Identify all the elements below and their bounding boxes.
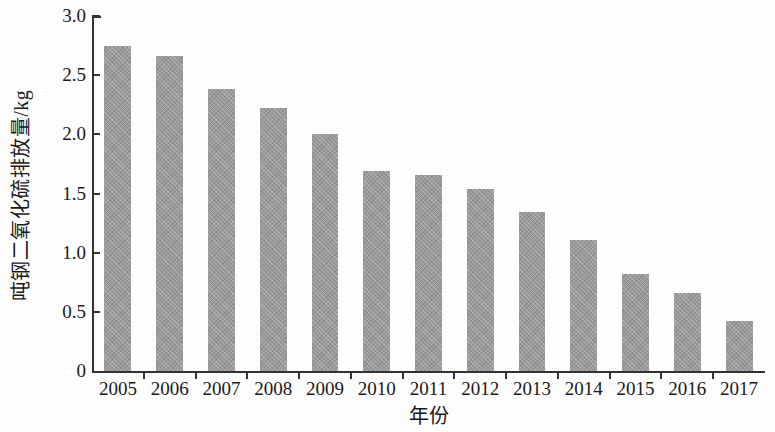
bar <box>726 321 753 371</box>
y-axis-tick-label: 0 <box>40 361 86 380</box>
x-axis-tick-label: 2006 <box>144 378 196 400</box>
x-axis-tick-label: 2017 <box>713 378 765 400</box>
y-axis-tick-labels: 00.51.01.52.02.53.0 <box>36 16 86 373</box>
y-axis-tick <box>92 133 100 135</box>
bar <box>674 293 701 371</box>
x-axis-tick-label: 2010 <box>351 378 403 400</box>
bar <box>104 46 131 371</box>
x-axis-tick-label: 2011 <box>403 378 455 400</box>
x-axis-tick-labels: 2005200620072008200920102011201220132014… <box>92 378 765 406</box>
y-axis-tick-label: 3.0 <box>40 6 86 25</box>
bar <box>363 171 390 371</box>
bar <box>467 189 494 371</box>
bar <box>156 56 183 371</box>
x-axis-title: 年份 <box>92 404 765 428</box>
y-axis-tick <box>92 15 100 17</box>
x-axis-line <box>92 371 765 373</box>
x-axis-tick-label: 2008 <box>247 378 299 400</box>
bar <box>622 274 649 371</box>
y-axis-tick <box>92 252 100 254</box>
y-axis-title: 吨钢二氧化硫排放量/kg <box>0 0 40 390</box>
bar <box>415 175 442 371</box>
x-axis-tick-label: 2016 <box>661 378 713 400</box>
y-axis-tick <box>92 311 100 313</box>
y-axis-tick <box>92 74 100 76</box>
y-axis-tick-label: 1.0 <box>40 243 86 262</box>
x-axis-tick-label: 2015 <box>610 378 662 400</box>
y-axis-tick-label: 0.5 <box>40 302 86 321</box>
bar <box>312 134 339 371</box>
bar <box>260 108 287 371</box>
x-axis-tick-label: 2013 <box>506 378 558 400</box>
bar <box>519 212 546 371</box>
x-axis-tick-label: 2005 <box>92 378 144 400</box>
x-axis-tick-label: 2007 <box>196 378 248 400</box>
y-axis-tick-label: 2.5 <box>40 65 86 84</box>
x-axis-tick-label: 2014 <box>558 378 610 400</box>
y-axis-title-label: 吨钢二氧化硫排放量/kg <box>6 89 35 301</box>
bar-chart-figure: 吨钢二氧化硫排放量/kg 00.51.01.52.02.53.0 2005200… <box>0 0 775 432</box>
x-axis-tick-label: 2012 <box>454 378 506 400</box>
x-axis-tick-label: 2009 <box>299 378 351 400</box>
y-axis-tick-label: 2.0 <box>40 124 86 143</box>
y-axis-tick <box>92 193 100 195</box>
y-axis-line <box>92 16 94 373</box>
bar <box>570 240 597 371</box>
y-axis-tick-label: 1.5 <box>40 184 86 203</box>
bar <box>208 89 235 371</box>
plot-area <box>92 16 765 373</box>
